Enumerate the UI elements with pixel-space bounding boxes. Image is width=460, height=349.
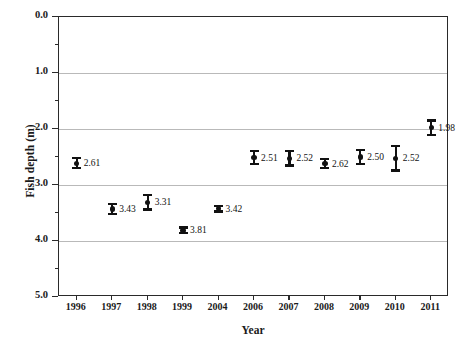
error-bar-cap-upper (356, 149, 365, 151)
x-tick-label-2011: 2011 (405, 301, 455, 312)
marker-dot (251, 155, 256, 160)
error-bar-cap-lower (250, 163, 259, 165)
figure-fish-depth-by-year: Fish depth (m) 0.01.02.03.04.05.0 2.613.… (0, 0, 460, 349)
x-tick-1996 (76, 296, 77, 300)
y-tick-label-0.0: 0.0 (8, 9, 48, 20)
error-bar-cap-upper (391, 145, 400, 147)
error-bar-cap-upper (320, 158, 329, 160)
error-bar-cap-lower (427, 134, 436, 136)
error-bar-cap-upper (285, 150, 294, 152)
x-tick-2011 (430, 296, 431, 300)
x-tick-1999 (182, 296, 183, 300)
gridline-y-4 (59, 241, 447, 242)
x-tick-2009 (359, 296, 360, 300)
marker-dot (74, 161, 79, 166)
data-label-2010: 2.52 (403, 153, 420, 163)
x-tick-1997 (111, 296, 112, 300)
error-bar-cap-upper (72, 157, 81, 159)
x-tick-1998 (147, 296, 148, 300)
x-tick-2007 (288, 296, 289, 300)
y-tick-label-4.0: 4.0 (8, 233, 48, 244)
marker-dot (110, 206, 115, 211)
data-label-2011: 1.98 (438, 123, 455, 133)
marker-dot (429, 125, 434, 130)
y-tick-label-5.0: 5.0 (8, 289, 48, 300)
error-bar-cap-lower (72, 167, 81, 169)
marker-dot (322, 161, 327, 166)
plot-area: 2.613.433.313.813.422.512.522.622.502.52… (58, 16, 448, 296)
y-tick-label-1.0: 1.0 (8, 65, 48, 76)
x-tick-2008 (324, 296, 325, 300)
y-tick-5.0 (52, 296, 58, 297)
error-bar-cap-lower (285, 164, 294, 166)
gridline-y-1 (59, 73, 447, 74)
marker-dot (145, 200, 150, 205)
data-label-1996: 2.61 (84, 158, 101, 168)
marker-dot (358, 154, 363, 159)
x-tick-2006 (253, 296, 254, 300)
x-axis-title: Year (58, 324, 448, 336)
error-bar-cap-lower (320, 167, 329, 169)
marker-dot (393, 156, 398, 161)
x-tick-2010 (395, 296, 396, 300)
marker-dot (180, 228, 185, 233)
data-label-2004: 3.42 (226, 204, 243, 214)
gridline-y-3 (59, 185, 447, 186)
y-tick-label-2.0: 2.0 (8, 121, 48, 132)
y-axis-title: Fish depth (m) (24, 81, 36, 241)
error-bar-cap-lower (391, 169, 400, 171)
y-tick-label-3.0: 3.0 (8, 177, 48, 188)
error-bar-cap-upper (250, 150, 259, 152)
error-bar-cap-lower (108, 213, 117, 215)
data-label-1998: 3.31 (155, 197, 172, 207)
error-bar-cap-lower (356, 163, 365, 165)
error-bar-cap-upper (108, 203, 117, 205)
error-bar-cap-upper (427, 119, 436, 121)
marker-dot (287, 156, 292, 161)
error-bar-cap-upper (143, 194, 152, 196)
gridline-y-2 (59, 129, 447, 130)
error-bar-cap-lower (143, 208, 152, 210)
x-tick-2004 (218, 296, 219, 300)
